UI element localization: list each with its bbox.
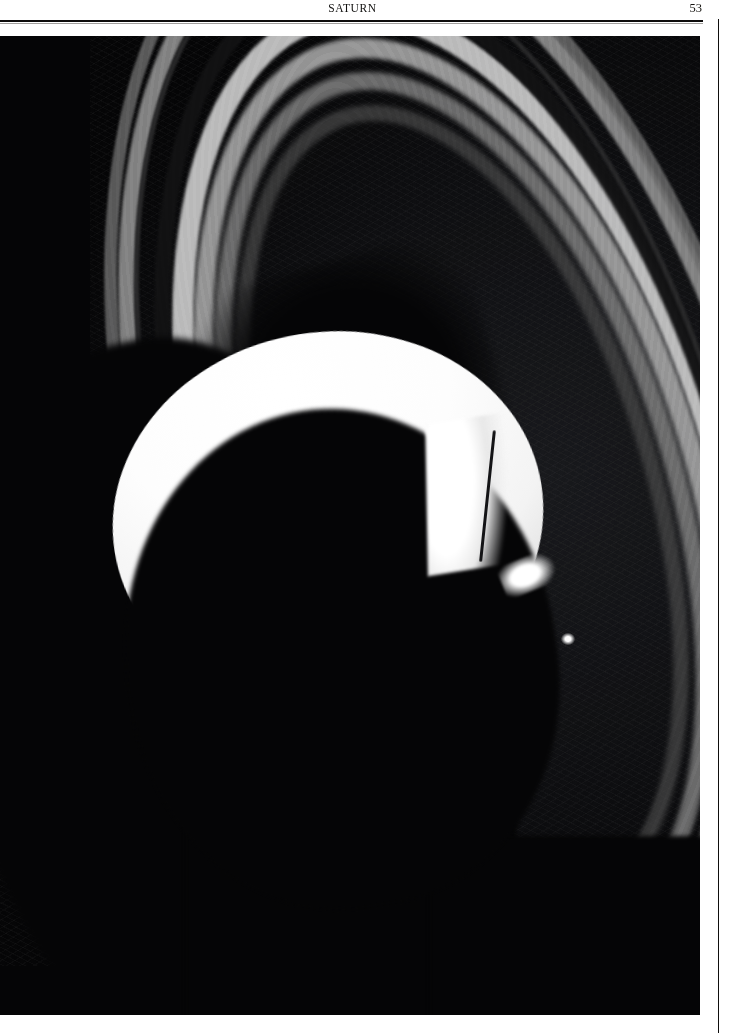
page-number: 53 [690, 1, 703, 16]
limb-highlight [560, 632, 576, 646]
header-rule-hairline [0, 23, 703, 24]
page-margin-bottom [0, 1015, 718, 1033]
book-page: SATURN 53 [0, 0, 731, 1033]
planet-bright-limb [425, 410, 522, 576]
saturn-photograph [0, 36, 700, 1015]
header-rule [0, 20, 703, 22]
margin-rule [718, 19, 719, 1033]
page-title: SATURN [0, 2, 731, 14]
running-head: SATURN 53 [0, 0, 731, 21]
planet-globe [0, 36, 700, 1015]
